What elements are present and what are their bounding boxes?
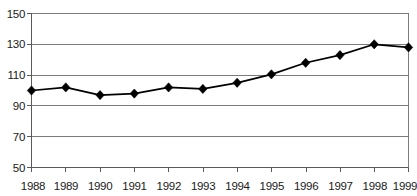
- data-point-1996: [301, 58, 309, 67]
- data-point-1991: [130, 89, 138, 98]
- x-tick-label-1998: 1998: [363, 180, 387, 192]
- data-point-1988: [27, 86, 35, 95]
- chart-container: Sales relative to sector 1988 = 100 150 …: [0, 0, 417, 196]
- axes-group: [31, 13, 409, 168]
- y-tick-labels-group: 150 130 110 90 70 50: [7, 8, 25, 174]
- data-series-line: [32, 44, 409, 95]
- x-tick-label-1990: 1990: [88, 180, 112, 192]
- x-tick-label-1991: 1991: [122, 180, 146, 192]
- data-point-1994: [233, 78, 241, 87]
- x-tick-label-1995: 1995: [260, 180, 284, 192]
- x-tick-marks-group: [32, 168, 409, 172]
- y-tick-label-90: 90: [13, 100, 25, 112]
- x-tick-label-1996: 1996: [294, 180, 318, 192]
- x-tick-label-1989: 1989: [54, 180, 78, 192]
- y-tick-label-70: 70: [13, 131, 25, 143]
- y-tick-label-150: 150: [7, 8, 25, 20]
- data-markers-group: [27, 40, 412, 100]
- data-point-1992: [164, 83, 172, 92]
- data-point-1995: [267, 70, 275, 79]
- data-point-1989: [62, 83, 70, 92]
- x-tick-label-1997: 1997: [328, 180, 352, 192]
- data-point-1993: [199, 84, 207, 93]
- data-point-1997: [336, 50, 344, 59]
- y-tick-label-110: 110: [8, 69, 25, 81]
- y-tick-label-130: 130: [7, 38, 25, 50]
- x-tick-label-1992: 1992: [157, 180, 181, 192]
- x-tick-label-1993: 1993: [191, 180, 215, 192]
- y-tick-label-50: 50: [13, 162, 25, 174]
- data-point-1998: [370, 40, 378, 49]
- x-tick-label-1994: 1994: [225, 180, 250, 192]
- x-tick-labels-group: 1988 1989 1990 1991 1992 1993 1994 1995 …: [21, 180, 417, 192]
- x-tick-label-1999: 1999: [393, 180, 417, 192]
- line-chart-plot: 150 130 110 90 70 50 1988 1989 1990 1991: [0, 0, 417, 196]
- x-tick-label-1988: 1988: [21, 180, 45, 192]
- data-point-1990: [96, 91, 104, 100]
- gridlines-group: [31, 14, 409, 137]
